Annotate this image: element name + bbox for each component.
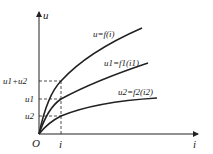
x-axis-label: i bbox=[193, 139, 196, 149]
x-tick-i: i bbox=[59, 139, 62, 149]
y-tick-u1-plus-u2: u1+u2 bbox=[3, 76, 27, 86]
y-tick-u2: u2 bbox=[25, 111, 34, 121]
curve-label-total: u=f(i) bbox=[93, 29, 115, 39]
diagram-canvas bbox=[0, 0, 213, 154]
curve-label-u1: u1=f1(i1) bbox=[104, 58, 139, 68]
y-axis-label: u bbox=[43, 10, 49, 20]
curve-label-u2: u2=f2(i2) bbox=[118, 87, 153, 97]
origin-label: O bbox=[32, 138, 40, 148]
curve-u1 bbox=[39, 63, 148, 134]
y-tick-u1: u1 bbox=[25, 94, 34, 104]
